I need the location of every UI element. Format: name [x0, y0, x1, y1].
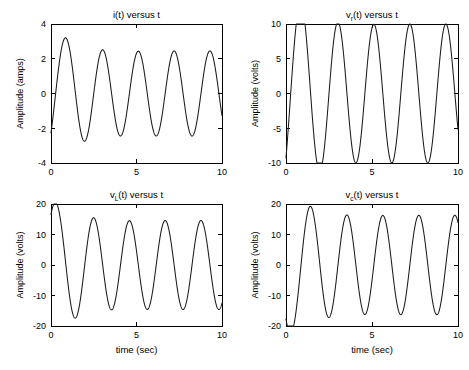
y-axis-label: Amplitude (volts) [250, 60, 260, 127]
x-tick-label: 10 [453, 167, 463, 177]
plot-frame [286, 204, 458, 326]
matlab-figure-canvas: i(t) versus t-4-20240510Amplitude (amps)… [0, 0, 469, 370]
waveform-curve-resistor [286, 24, 458, 163]
x-tick-label: 5 [369, 167, 374, 177]
y-tick-label: 0 [276, 89, 281, 99]
y-tick-label: -10 [268, 291, 281, 301]
y-tick-label: 0 [41, 89, 46, 99]
x-tick-label: 5 [134, 167, 139, 177]
y-tick-label: 20 [271, 199, 281, 209]
x-tick-label: 10 [217, 330, 227, 340]
y-tick-label: -10 [33, 291, 46, 301]
plot-title: vc(t) versus t [346, 189, 399, 202]
y-tick-label: 20 [36, 199, 46, 209]
waveform-curve-inductor [51, 204, 222, 318]
y-tick-label: -20 [33, 321, 46, 331]
y-tick-label: -5 [273, 124, 281, 134]
y-tick-label: 0 [41, 260, 46, 270]
subplot-capacitor: vc(t) versus t-20-10010200510Amplitude (… [235, 183, 469, 370]
waveform-curve-current [51, 38, 222, 141]
y-tick-label: 0 [276, 260, 281, 270]
x-tick-label: 10 [453, 330, 463, 340]
x-tick-label: 5 [134, 330, 139, 340]
y-tick-label: -20 [268, 321, 281, 331]
y-tick-label: 5 [276, 54, 281, 64]
x-tick-label: 0 [48, 167, 53, 177]
y-tick-label: 10 [271, 230, 281, 240]
x-axis-label: time (sec) [351, 344, 393, 355]
y-tick-label: 10 [36, 230, 46, 240]
y-tick-label: 2 [41, 54, 46, 64]
plot-frame [51, 204, 222, 326]
subplot-current: i(t) versus t-4-20240510Amplitude (amps) [0, 0, 235, 183]
y-tick-label: 4 [41, 19, 46, 29]
x-tick-label: 10 [217, 167, 227, 177]
x-tick-label: 5 [369, 330, 374, 340]
subplot-resistor: vr(t) versus t-10-505100510Amplitude (vo… [235, 0, 469, 183]
subplot-inductor: vL(t) versus t-20-10010200510Amplitude (… [0, 183, 235, 370]
y-axis-label: Amplitude (volts) [250, 231, 260, 298]
x-axis-label: time (sec) [116, 344, 158, 355]
y-tick-label: -10 [268, 158, 281, 168]
y-tick-label: -4 [38, 158, 46, 168]
plot-title: vr(t) versus t [346, 9, 398, 22]
plot-title: vL(t) versus t [110, 189, 164, 202]
plot-frame [51, 24, 222, 163]
y-tick-label: 10 [271, 19, 281, 29]
y-tick-label: -2 [38, 124, 46, 134]
x-tick-label: 0 [48, 330, 53, 340]
waveform-curve-capacitor [286, 206, 458, 326]
x-tick-label: 0 [283, 330, 288, 340]
plot-title: i(t) versus t [113, 9, 160, 20]
x-tick-label: 0 [283, 167, 288, 177]
y-axis-label: Amplitude (amps) [15, 58, 25, 129]
y-axis-label: Amplitude (volts) [15, 231, 25, 298]
